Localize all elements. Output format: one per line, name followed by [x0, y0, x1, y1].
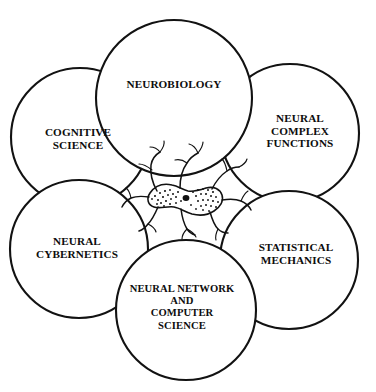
venn-rosette-diagram: NEUROBIOLOGY COGNITIVE SCIENCE NEURAL CO…	[0, 0, 376, 392]
neuron-icon	[0, 0, 376, 392]
